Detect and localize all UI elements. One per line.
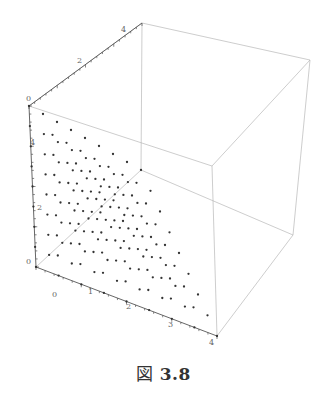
data-points (28, 105, 218, 337)
y-tick-4: 4 (121, 25, 126, 34)
x-tick-2: 2 (126, 302, 131, 311)
y-tick-2: 2 (77, 56, 82, 65)
x-tick-1: 1 (88, 287, 93, 296)
axis-ticks (29, 23, 217, 339)
x-tick-0: 0 (52, 290, 57, 299)
z-tick-0: 0 (26, 257, 31, 266)
z-tick-4: 4 (30, 138, 35, 147)
3d-scatter-plot: 0 1 2 3 4 0 2 4 0 2 4 (0, 0, 327, 412)
caption-prefix: 図 (136, 364, 154, 384)
caption-number: 3.8 (160, 364, 191, 384)
y-tick-0: 0 (26, 94, 31, 103)
z-tick-2: 2 (37, 203, 42, 212)
axes (29, 23, 217, 336)
bounding-box (29, 23, 310, 336)
figure-caption: 図 3.8 (0, 360, 327, 385)
x-tick-4: 4 (209, 338, 214, 347)
x-tick-3: 3 (168, 320, 173, 329)
